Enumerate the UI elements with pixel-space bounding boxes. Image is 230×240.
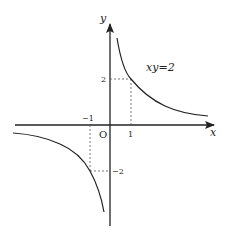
guide-lines-point-1-2 — [110, 79, 131, 125]
hyperbola-diagram: y x O 1 −1 2 −2 xy=2 — [0, 0, 230, 240]
origin-label: O — [99, 129, 107, 140]
tick-label-x-neg1: −1 — [82, 114, 94, 123]
x-axis-label: x — [210, 126, 217, 139]
tick-label-y-2: 2 — [101, 75, 106, 84]
tick-label-x-1: 1 — [128, 130, 133, 139]
hyperbola-branch-q3 — [13, 133, 104, 212]
y-axis-label: y — [99, 12, 107, 25]
tick-label-y-neg2: −2 — [112, 167, 124, 176]
equation-label: xy=2 — [146, 61, 175, 74]
